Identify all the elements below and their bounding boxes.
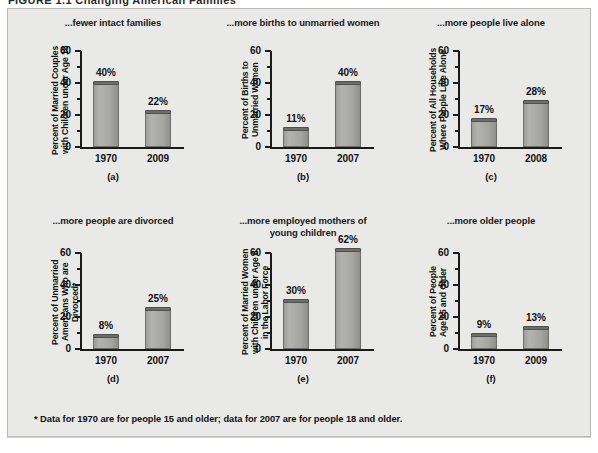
y-tick-minor xyxy=(77,130,81,132)
y-axis-title: Percent of People Age 65 and Older xyxy=(428,247,456,357)
bar-top-cap xyxy=(145,307,171,311)
bar xyxy=(93,83,119,147)
bar xyxy=(93,336,119,349)
bar xyxy=(283,301,309,349)
chart-panel-b: ...more births to unmarried womenPercent… xyxy=(208,17,398,213)
bar-top-cap xyxy=(523,326,549,330)
y-tick-major xyxy=(453,252,459,254)
bar-top-cap xyxy=(471,118,497,122)
panel-letter: (f) xyxy=(396,373,586,384)
y-tick-major xyxy=(75,284,81,286)
y-tick-label: 60 xyxy=(239,46,261,56)
x-axis-line xyxy=(270,147,374,149)
y-tick-label: 40 xyxy=(427,78,449,88)
y-tick-major xyxy=(265,252,271,254)
bar-top-cap xyxy=(145,110,171,114)
plot-area: 02040609%197013%2009 xyxy=(458,253,562,349)
y-tick-major xyxy=(453,114,459,116)
y-tick-major xyxy=(265,146,271,148)
y-tick-minor xyxy=(267,66,271,68)
y-tick-label: 60 xyxy=(427,248,449,258)
y-tick-label: 20 xyxy=(427,312,449,322)
x-tick-label: 2009 xyxy=(514,355,558,366)
bar-value-label: 28% xyxy=(516,86,556,97)
chart-panel-d: ...more people are divorcedPercent of Un… xyxy=(18,215,208,415)
y-tick-minor xyxy=(267,98,271,100)
bar-value-label: 17% xyxy=(464,104,504,115)
y-tick-label: 0 xyxy=(239,344,261,354)
bar-value-label: 40% xyxy=(86,67,126,78)
y-tick-minor xyxy=(77,300,81,302)
y-tick-label: 0 xyxy=(427,142,449,152)
bar-value-label: 40% xyxy=(328,67,368,78)
y-axis-title: Percent of Married Women with Children u… xyxy=(240,247,268,357)
bar-value-label: 9% xyxy=(464,319,504,330)
bar-top-cap xyxy=(93,334,119,338)
x-axis-line xyxy=(80,349,184,351)
x-tick-label: 1970 xyxy=(84,153,128,164)
bar-top-cap xyxy=(335,81,361,85)
y-tick-major xyxy=(75,146,81,148)
y-tick-major xyxy=(265,316,271,318)
figure-title: FIGURE 1.1 Changing American Families xyxy=(8,0,428,6)
y-tick-label: 0 xyxy=(49,142,71,152)
chart-panel-a: ...fewer intact familiesPercent of Marri… xyxy=(18,17,208,213)
bar-value-label: 62% xyxy=(328,234,368,245)
y-tick-major xyxy=(75,316,81,318)
figure-panel: ...fewer intact familiesPercent of Marri… xyxy=(7,8,591,437)
bar-top-cap xyxy=(93,81,119,85)
panel-letter: (a) xyxy=(18,171,208,182)
y-tick-label: 40 xyxy=(49,280,71,290)
x-tick-label: 1970 xyxy=(462,153,506,164)
bar-top-cap xyxy=(471,333,497,337)
bar-top-cap xyxy=(335,248,361,252)
bar-value-label: 11% xyxy=(276,113,316,124)
x-tick-label: 1970 xyxy=(462,355,506,366)
bar xyxy=(471,120,497,147)
panel-letter: (d) xyxy=(18,373,208,384)
bar xyxy=(283,129,309,147)
y-tick-minor xyxy=(455,300,459,302)
chart-title: ...more employed mothers of young childr… xyxy=(208,215,398,239)
bar xyxy=(471,335,497,349)
y-tick-major xyxy=(453,284,459,286)
bar xyxy=(335,83,361,147)
chart-panel-f: ...more older peoplePercent of People Ag… xyxy=(396,215,586,415)
y-tick-major xyxy=(453,348,459,350)
chart-title: ...more people live alone xyxy=(396,17,586,41)
plot-area: 020406017%197028%2008 xyxy=(458,51,562,147)
bar-value-label: 22% xyxy=(138,96,178,107)
y-axis-title: Percent of All Households Where People L… xyxy=(428,45,456,155)
y-tick-label: 60 xyxy=(49,46,71,56)
bar xyxy=(145,309,171,349)
y-tick-label: 20 xyxy=(49,312,71,322)
panel-letter: (e) xyxy=(208,373,398,384)
y-tick-minor xyxy=(267,332,271,334)
y-tick-label: 20 xyxy=(49,110,71,120)
x-tick-label: 2008 xyxy=(514,153,558,164)
x-tick-label: 1970 xyxy=(274,355,318,366)
x-axis-line xyxy=(270,349,374,351)
bar-value-label: 8% xyxy=(86,320,126,331)
y-tick-label: 40 xyxy=(239,78,261,88)
y-tick-major xyxy=(453,50,459,52)
y-tick-major xyxy=(75,114,81,116)
plot-area: 020406011%197040%2007 xyxy=(270,51,374,147)
y-tick-major xyxy=(265,348,271,350)
chart-panel-e: ...more employed mothers of young childr… xyxy=(208,215,398,415)
plot-area: 020406040%197022%2009 xyxy=(80,51,184,147)
y-tick-label: 40 xyxy=(239,280,261,290)
chart-panel-c: ...more people live alonePercent of All … xyxy=(396,17,586,213)
chart-title: ...fewer intact families xyxy=(18,17,208,41)
y-tick-minor xyxy=(267,300,271,302)
bar-value-label: 13% xyxy=(516,312,556,323)
y-tick-major xyxy=(75,252,81,254)
x-axis-line xyxy=(80,147,184,149)
y-axis-title: Percent of Married Couples with Children… xyxy=(50,45,78,155)
panel-letter: (c) xyxy=(396,171,586,182)
y-tick-label: 0 xyxy=(427,344,449,354)
y-tick-major xyxy=(75,82,81,84)
plot-area: 02040608%197025%2007 xyxy=(80,253,184,349)
y-tick-minor xyxy=(77,332,81,334)
y-tick-label: 60 xyxy=(239,248,261,258)
